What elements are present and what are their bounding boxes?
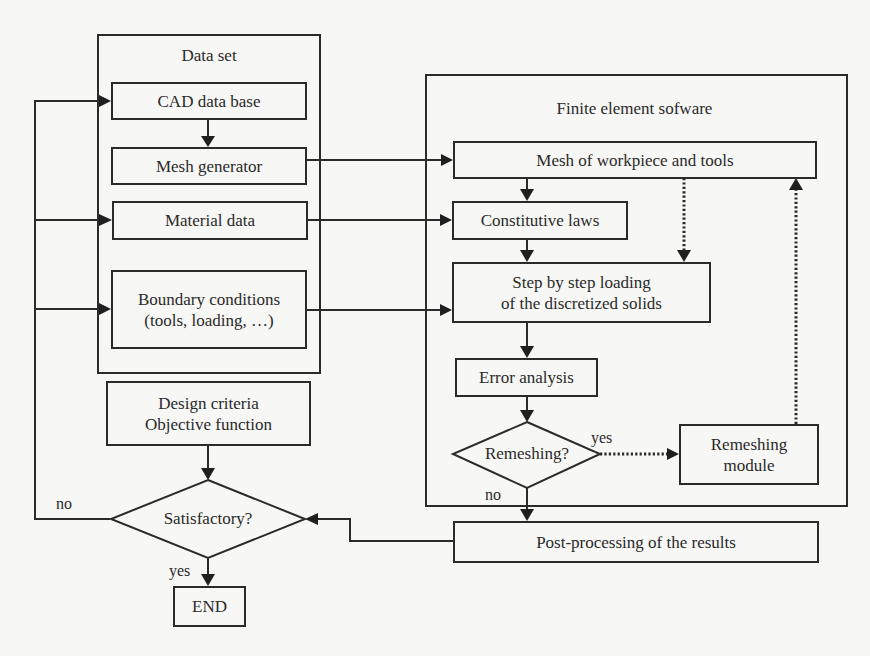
node-label-line2: module: [724, 455, 775, 476]
node-label: Error analysis: [479, 367, 574, 388]
node-remeshing-module: Remeshing module: [679, 424, 819, 485]
data-set-title: Data set: [97, 46, 321, 66]
node-step-by-step-loading: Step by step loading of the discretized …: [452, 262, 711, 323]
node-constitutive-laws: Constitutive laws: [452, 201, 628, 240]
arrowhead-down: [520, 509, 534, 521]
node-cad-data-base: CAD data base: [111, 82, 307, 120]
node-label-line2: Objective function: [145, 414, 272, 435]
arrowhead-down: [201, 574, 215, 586]
node-label-line1: Remeshing: [711, 434, 788, 455]
node-label: CAD data base: [158, 91, 261, 112]
flowchart-canvas: Data set Finite element sofware CAD data…: [0, 0, 870, 656]
node-material-data: Material data: [112, 201, 308, 240]
node-label-line1: Boundary conditions: [138, 289, 280, 310]
node-label: Post-processing of the results: [536, 532, 736, 553]
fe-software-title: Finite element sofware: [453, 99, 816, 119]
node-mesh-workpiece-tools: Mesh of workpiece and tools: [453, 141, 817, 179]
node-end: END: [173, 586, 246, 627]
edge-label-satisfactory-yes: yes: [169, 561, 190, 581]
node-label: END: [192, 596, 227, 617]
edge-label-remeshing-no: no: [485, 485, 501, 505]
node-label: Mesh generator: [156, 156, 262, 177]
node-label-line1: Step by step loading: [512, 272, 650, 293]
node-mesh-generator: Mesh generator: [111, 147, 307, 185]
node-label: Constitutive laws: [481, 210, 600, 231]
node-label: Material data: [165, 210, 255, 231]
node-label-line1: Design criteria: [158, 393, 259, 414]
node-error-analysis: Error analysis: [455, 358, 598, 397]
node-post-processing: Post-processing of the results: [453, 521, 819, 563]
node-remeshing-decision: Remeshing?: [453, 444, 601, 464]
edge-post-to-satisfactory: [318, 519, 453, 541]
node-label-line2: (tools, loading, …): [144, 310, 273, 331]
node-label-line2: of the discretized solids: [501, 293, 662, 314]
edge-label-remeshing-yes: yes: [591, 428, 612, 448]
arrowhead-down: [201, 468, 215, 480]
node-design-criteria: Design criteria Objective function: [106, 381, 311, 446]
node-satisfactory: Satisfactory?: [111, 509, 305, 529]
node-boundary-conditions: Boundary conditions (tools, loading, …): [111, 270, 307, 349]
edge-label-satisfactory-no: no: [56, 494, 72, 514]
node-label: Mesh of workpiece and tools: [536, 150, 733, 171]
